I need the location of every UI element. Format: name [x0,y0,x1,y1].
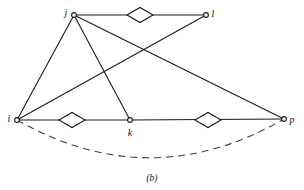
node-label-k: k [128,127,133,138]
edge-j-k [74,15,130,120]
node-i[interactable] [15,118,20,123]
node-l[interactable] [204,13,209,18]
edges-layer [17,15,284,158]
nodes-layer: jlikp [8,7,295,138]
graph-diagram: jlikp (b) [0,0,304,190]
node-label-i: i [8,113,11,124]
diamond-marker-k-p [195,113,221,128]
figure-container: jlikp (b) [0,0,304,190]
node-p[interactable] [282,117,287,122]
figure-caption: (b) [146,173,157,184]
node-label-p: p [289,114,295,125]
node-label-j: j [63,7,68,18]
edge-i-p-dashed [17,119,284,158]
diamond-marker-j-l [127,8,153,23]
node-k[interactable] [128,118,133,123]
diamond-markers-layer [59,8,221,128]
node-j[interactable] [72,13,77,18]
node-label-l: l [212,8,215,19]
diamond-marker-i-k [59,113,85,128]
